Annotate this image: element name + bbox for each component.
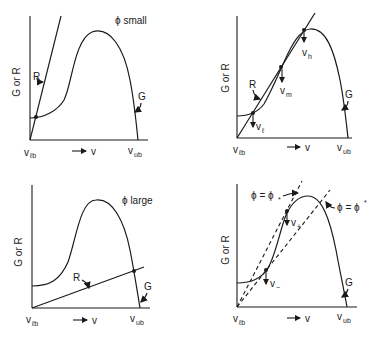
svg-text:G or R: G or R <box>13 237 24 266</box>
svg-text:*: * <box>364 199 367 206</box>
svg-text:v: v <box>280 85 285 96</box>
label-r: R <box>73 272 80 283</box>
svg-text:*: * <box>278 196 281 203</box>
label-r: R <box>249 79 256 90</box>
g-curve <box>30 31 138 140</box>
label-g: G <box>144 281 152 292</box>
svg-text:ℓb: ℓb <box>238 319 245 326</box>
annotation-phi-small: ϕ small <box>115 15 147 26</box>
svg-text:m: m <box>286 91 292 98</box>
svg-text:v: v <box>302 47 307 58</box>
svg-text:v: v <box>305 142 310 153</box>
svg-text:v: v <box>270 278 275 289</box>
svg-text:v: v <box>130 313 135 324</box>
label-phi-sub-star: ϕ = ϕ <box>251 190 274 201</box>
svg-text:v: v <box>26 314 31 325</box>
svg-text:v: v <box>337 311 342 322</box>
svg-text:v: v <box>337 142 342 153</box>
svg-text:ub: ub <box>136 319 144 326</box>
svg-text:ℓb: ℓb <box>29 152 36 159</box>
r-line <box>32 267 144 308</box>
label-g: G <box>345 277 353 288</box>
svg-text:v: v <box>128 145 133 156</box>
intersection-point <box>34 115 38 119</box>
label-phi-sup-star: ϕ = ϕ <box>337 202 360 213</box>
svg-text:v: v <box>305 313 310 324</box>
panel-intersections: v h v m v ℓ R G G or R v ℓb v v ub <box>220 13 353 156</box>
svg-text:G or R: G or R <box>220 235 231 264</box>
svg-text:h: h <box>308 53 312 60</box>
svg-text:ℓb: ℓb <box>238 149 245 156</box>
svg-text:v: v <box>256 121 261 132</box>
svg-text:ℓ: ℓ <box>261 127 265 134</box>
y-axis-label: G or R <box>11 67 22 96</box>
svg-text:G or R: G or R <box>220 63 231 92</box>
annotation-phi-large: ϕ large <box>122 195 153 206</box>
g-curve <box>237 196 347 307</box>
panel-critical-phi: v + v − ϕ = ϕ * ϕ = ϕ * G G or R v ℓb v … <box>220 181 367 326</box>
svg-text:−: − <box>276 284 280 291</box>
svg-text:ub: ub <box>343 148 351 155</box>
svg-text:v: v <box>92 315 97 326</box>
svg-text:v: v <box>24 147 29 158</box>
label-r: R <box>33 71 40 82</box>
svg-text:ub: ub <box>343 317 351 324</box>
svg-text:ℓb: ℓb <box>31 320 38 327</box>
svg-text:ub: ub <box>134 151 142 158</box>
label-g: G <box>138 91 146 102</box>
label-g: G <box>345 89 353 100</box>
panel-phi-large: R G ϕ large G or R v ℓb v v ub <box>13 185 153 327</box>
g-curve <box>32 200 140 308</box>
svg-text:v: v <box>233 144 238 155</box>
r-line-phi-sup-star <box>237 190 330 307</box>
figure-canvas: R G ϕ small G or R v ℓb v v ub v h v m v… <box>0 0 379 337</box>
svg-text:+: + <box>297 223 301 230</box>
svg-text:v: v <box>233 313 238 324</box>
svg-text:v: v <box>91 146 96 157</box>
panel-phi-small: R G ϕ small G or R v ℓb v v ub <box>11 15 148 159</box>
svg-text:v: v <box>291 217 296 228</box>
